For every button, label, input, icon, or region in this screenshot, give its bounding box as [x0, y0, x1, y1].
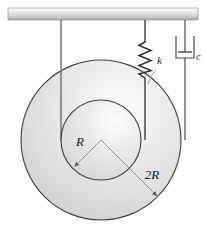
- ceiling-bar: [8, 8, 198, 20]
- figure-container: R 2R k c: [0, 0, 206, 237]
- damper-label-group: c: [196, 51, 201, 62]
- spring-label: k: [157, 54, 163, 66]
- damper-label: c: [196, 51, 201, 62]
- mechanics-diagram: R 2R k c: [0, 0, 206, 237]
- outer-radius-label: 2R: [145, 167, 160, 182]
- inner-radius-label: R: [75, 134, 84, 149]
- ceiling-support: [8, 8, 198, 20]
